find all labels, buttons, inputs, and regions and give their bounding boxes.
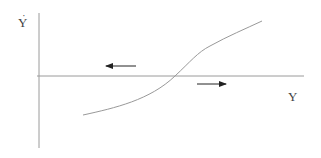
phase-curve <box>83 21 262 115</box>
horizontal-axis-label: Y <box>288 90 297 103</box>
derivative-dot: ˙ <box>22 13 26 24</box>
phase-diagram <box>0 0 321 158</box>
vertical-axis-label: ˙ Y <box>18 16 27 29</box>
